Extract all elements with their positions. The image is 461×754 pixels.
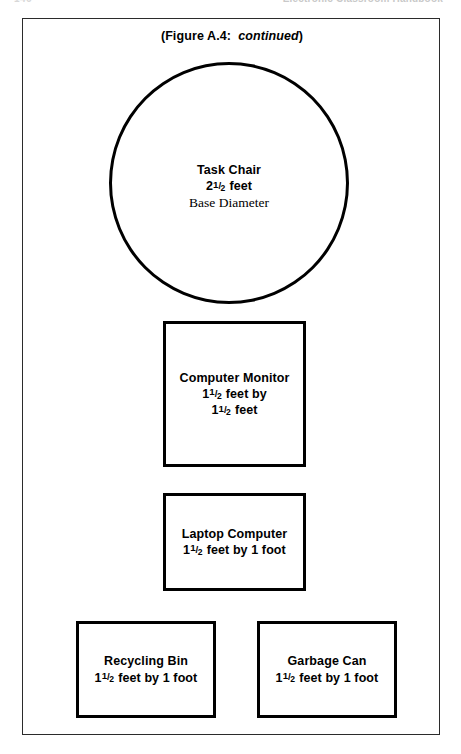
shape-task-chair: Task Chair 21/2 feet Base Diameter [109,62,349,304]
recycling-dim-unit: feet by 1 foot [118,671,197,685]
laptop-computer-label-group: Laptop Computer 11/2 feet by 1 foot [182,526,288,559]
shape-recycling-bin: Recycling Bin 11/2 feet by 1 foot [76,621,216,718]
recycling-bin-label-group: Recycling Bin 11/2 feet by 1 foot [95,653,198,686]
laptop-dim-numerator: 1 [190,542,195,553]
book-title-header: Electronic Classroom Handbook [283,0,443,4]
recycling-bin-dimension: 11/2 feet by 1 foot [95,670,198,686]
shape-laptop-computer: Laptop Computer 11/2 feet by 1 foot [163,493,306,591]
monitor-dim1-denominator: 2 [217,391,222,401]
laptop-dim-unit: feet by 1 foot [207,543,286,557]
figure-caption: (Figure A.4: continued) [23,29,441,43]
recycling-bin-name: Recycling Bin [95,653,198,669]
figure-caption-prefix: (Figure A.4: [161,29,231,43]
shape-garbage-can: Garbage Can 11/2 feet by 1 foot [257,621,397,718]
task-chair-dim-whole: 2 [206,179,213,193]
running-header: 146 Electronic Classroom Handbook [0,0,461,7]
computer-monitor-dimension-line1: 11/2 feet by [180,386,290,402]
recycling-dim-fraction: 1/2 [102,671,115,684]
computer-monitor-label-group: Computer Monitor 11/2 feet by 11/2 feet [180,370,290,419]
garbage-dim-denominator: 2 [290,674,295,684]
figure-caption-status: continued [238,29,299,43]
recycling-dim-whole: 1 [95,671,102,685]
figure-frame: (Figure A.4: continued) Task Chair 21/2 … [22,18,440,735]
garbage-dim-whole: 1 [276,671,283,685]
task-chair-label-group: Task Chair 21/2 feet Base Diameter [189,162,269,212]
laptop-computer-name: Laptop Computer [182,526,288,542]
garbage-dim-unit: feet by 1 foot [299,671,378,685]
monitor-dim1-unit: feet by [226,387,267,401]
task-chair-dim-fraction: 1/2 [213,180,226,193]
shape-computer-monitor: Computer Monitor 11/2 feet by 11/2 feet [163,321,306,467]
computer-monitor-dimension-line2: 11/2 feet [180,402,290,418]
monitor-dim1-numerator: 1 [209,386,214,397]
garbage-can-name: Garbage Can [276,653,379,669]
task-chair-dimension: 21/2 feet [189,178,269,194]
garbage-can-label-group: Garbage Can 11/2 feet by 1 foot [276,653,379,686]
page-number: 146 [14,0,32,4]
laptop-dim-denominator: 2 [198,547,203,557]
monitor-dim1-fraction: 1/2 [209,388,222,401]
task-chair-dim-unit: feet [229,179,252,193]
monitor-dim2-unit: feet [235,403,258,417]
laptop-dim-fraction: 1/2 [190,544,203,557]
garbage-can-dimension: 11/2 feet by 1 foot [276,670,379,686]
laptop-computer-dimension: 11/2 feet by 1 foot [182,542,288,558]
monitor-dim2-denominator: 2 [226,407,231,417]
task-chair-name: Task Chair [189,162,269,178]
computer-monitor-name: Computer Monitor [180,370,290,386]
figure-caption-suffix: ) [299,29,303,43]
garbage-dim-fraction: 1/2 [283,671,296,684]
recycling-dim-denominator: 2 [109,674,114,684]
task-chair-dim-denominator: 2 [221,183,226,193]
monitor-dim2-fraction: 1/2 [218,404,231,417]
task-chair-subtitle: Base Diameter [189,194,269,212]
